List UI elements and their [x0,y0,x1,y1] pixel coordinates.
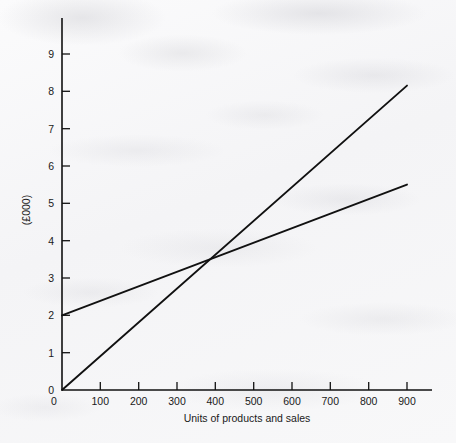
x-tick-label-300: 300 [168,395,186,407]
y-tick-label-8: 8 [48,85,54,97]
y-tick-label-9: 9 [48,48,54,60]
x-tick-label-800: 800 [360,395,378,407]
y-tick-label-1: 1 [48,347,54,359]
y-tick-label-6: 6 [48,160,54,172]
x-axis-tick-labels: 0 100 200 300 400 500 600 700 800 900 [51,395,416,407]
x-tick-label-200: 200 [130,395,148,407]
x-tick-label-900: 900 [398,395,416,407]
y-tick-label-2: 2 [48,309,54,321]
y-tick-label-7: 7 [48,123,54,135]
y-tick-label-5: 5 [48,197,54,209]
y-tick-label-3: 3 [48,272,54,284]
x-axis-title: Units of products and sales [184,412,311,424]
y-axis-ticks [62,54,70,353]
x-tick-label-100: 100 [92,395,110,407]
series-line-total-cost [62,185,407,316]
x-tick-label-500: 500 [245,395,263,407]
y-axis-tick-labels: 0 1 2 3 4 5 6 7 8 9 [48,48,54,396]
x-axis-ticks [100,382,407,390]
y-axis-title: (£000) [20,195,32,225]
x-tick-label-600: 600 [283,395,301,407]
x-tick-label-700: 700 [322,395,340,407]
chart-canvas: 0 1 2 3 4 5 6 7 8 9 0 100 200 [0,0,456,443]
break-even-chart-figure: 0 1 2 3 4 5 6 7 8 9 0 100 200 [0,0,456,443]
series-line-sales-revenue [62,86,407,390]
x-tick-label-400: 400 [207,395,225,407]
y-tick-label-4: 4 [48,235,54,247]
x-tick-label-0: 0 [51,395,57,407]
